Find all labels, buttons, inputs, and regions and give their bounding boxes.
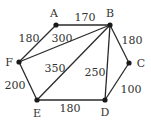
edge-weight-e-d: 180 bbox=[60, 102, 81, 115]
edge-weight-f-e: 200 bbox=[5, 79, 26, 92]
edge-weight-e-b: 350 bbox=[45, 62, 66, 75]
node-e bbox=[34, 97, 39, 102]
node-label-c: C bbox=[137, 57, 145, 70]
node-f bbox=[16, 59, 21, 64]
node-a bbox=[53, 22, 58, 27]
node-c bbox=[126, 60, 131, 65]
node-label-b: B bbox=[106, 7, 114, 20]
edge-b-d bbox=[105, 25, 110, 100]
node-label-a: A bbox=[49, 7, 59, 20]
edge-weight-c-d: 100 bbox=[121, 83, 142, 96]
edge-weight-a-b: 170 bbox=[75, 11, 96, 24]
edge-weight-b-c: 180 bbox=[122, 34, 143, 47]
weighted-graph-diagram: 170180300350250180100180200 ABCDEF bbox=[0, 0, 151, 122]
node-label-d: D bbox=[101, 106, 110, 119]
node-label-f: F bbox=[5, 56, 13, 69]
edge-weight-a-f: 180 bbox=[19, 32, 40, 45]
node-b bbox=[107, 22, 112, 27]
node-label-e: E bbox=[33, 107, 41, 120]
node-d bbox=[102, 97, 107, 102]
edge-weight-f-b: 300 bbox=[52, 32, 73, 45]
edge-weight-b-d: 250 bbox=[85, 66, 106, 79]
